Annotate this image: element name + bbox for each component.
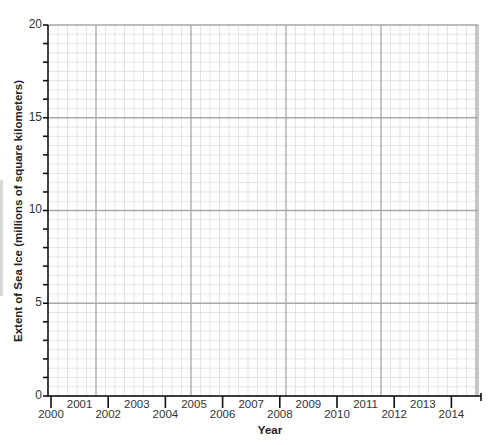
chart-plot-area (0, 0, 492, 445)
y-tick-label: 0 (12, 388, 42, 402)
y-tick-label: 20 (12, 17, 42, 31)
axes (43, 25, 481, 408)
x-axis-title: Year (240, 424, 300, 436)
y-axis-title: Extent of Sea Ice (millions of square ki… (12, 61, 24, 361)
x-tick-label: 2014 (431, 408, 471, 420)
